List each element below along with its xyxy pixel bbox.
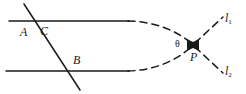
label-l2-subscript: 2 (228, 71, 232, 79)
upper-dashed-curve (128, 21, 193, 45)
label-l2: l2 (225, 65, 232, 77)
label-a: A (20, 26, 27, 38)
label-c: C (40, 25, 48, 37)
label-b: B (73, 54, 80, 66)
geometry-diagram-canvas (0, 0, 246, 94)
label-p: P (190, 51, 197, 63)
ray-l2 (195, 47, 223, 73)
lower-dashed-curve (128, 45, 193, 71)
transversal-line (24, 4, 80, 90)
ray-l1 (195, 17, 223, 43)
label-theta-angle: θ (175, 39, 180, 49)
geometry-figure: A C B P θ l1 l2 (0, 0, 246, 94)
label-l1-subscript: 1 (228, 18, 232, 26)
label-l1: l1 (225, 12, 232, 24)
